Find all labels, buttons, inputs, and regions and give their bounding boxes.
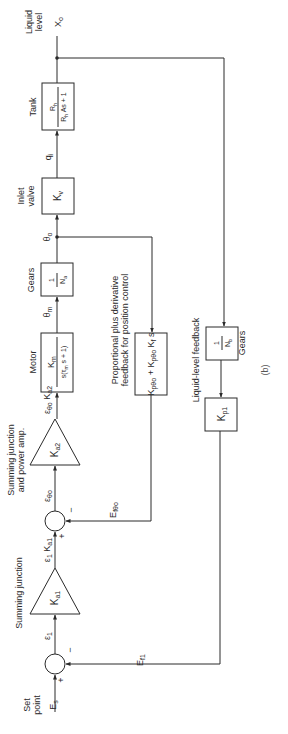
set-point-label-1: Set: [22, 698, 32, 712]
figure-caption: (b): [260, 364, 270, 375]
theta-o-label: θo: [42, 232, 53, 241]
liquid-level-feedback-caption: Liquid-level feedback: [191, 317, 201, 402]
input-signal-es: Es: [48, 700, 59, 710]
liquid-level-label-1: Liquid: [24, 10, 34, 34]
ef-theta-label: Efθo: [108, 502, 119, 518]
qi-label: qi: [43, 153, 54, 160]
epsilon1-label: ε1: [42, 632, 53, 640]
epsilon-theta-label: εθo: [42, 490, 53, 502]
gears-a-numerator: 1: [48, 278, 55, 282]
ef1-label: Ef1: [135, 654, 146, 666]
liquid-level-label-2: level: [34, 13, 44, 32]
e1-ka1-label: ε1 Ka1: [42, 538, 53, 562]
amp2-caption-2: and power amp.: [16, 428, 26, 493]
theta-m-label: θm: [42, 306, 53, 317]
summing-junction-1: [45, 654, 65, 674]
j1-minus-sign: −: [65, 647, 75, 652]
position-feedback-caption-2: feedback for position control: [120, 274, 130, 387]
position-feedback-caption-1: Proportional plus derivative: [110, 276, 120, 385]
ef1-feedback-line: [66, 431, 220, 664]
summing-junction-2: [45, 511, 65, 531]
ef-theta-feedback-line: [66, 395, 151, 521]
gears-b-numerator: 1: [213, 341, 220, 345]
summing-junction-caption: Summing junction: [14, 557, 24, 629]
inlet-valve-caption-2: valve: [26, 185, 36, 206]
j2-minus-sign: −: [66, 507, 76, 512]
inlet-valve-caption-1: Inlet: [16, 187, 26, 205]
gears-a-caption: Gears: [26, 267, 36, 292]
motor-caption: Motor: [28, 350, 38, 373]
amp2-caption-1: Summing junction: [6, 424, 16, 496]
set-point-label-2: point: [32, 695, 42, 715]
block-diagram: Set point Es + − Ef1 ε1 Ka1 Summing junc…: [0, 0, 288, 734]
output-signal-xo: Xo: [53, 17, 64, 27]
level-feedback-line: [57, 58, 224, 326]
tank-caption: Tank: [28, 97, 38, 117]
gears-b-caption: Gears: [237, 330, 247, 355]
j1-plus-sign: +: [56, 677, 66, 682]
j2-plus-sign: +: [57, 533, 67, 538]
